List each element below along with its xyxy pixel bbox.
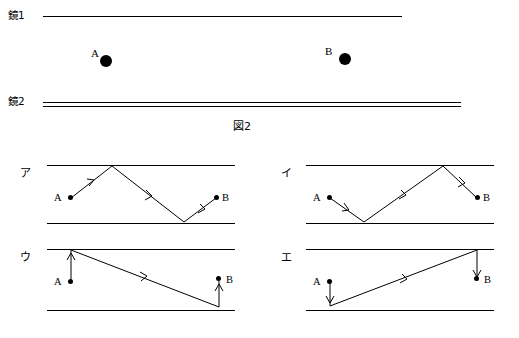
panel-e-point-a-label: A: [313, 277, 321, 288]
panel-e-point-b-label: B: [484, 275, 491, 286]
panel-e-ray-path: [0, 0, 519, 338]
panel-e-point-b-dot: [474, 276, 479, 281]
panel-e-point-a-dot: [327, 279, 332, 284]
